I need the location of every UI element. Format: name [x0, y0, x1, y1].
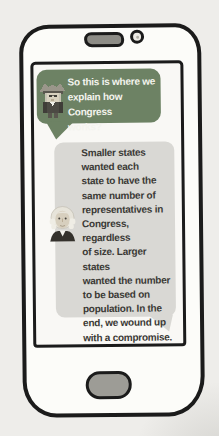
phone-home-button [86, 371, 132, 399]
franklin-character-avatar [40, 78, 66, 118]
message-text: Smaller states wanted each state to have… [81, 145, 176, 345]
phone-frame: So this is where we explain how Congress… [19, 23, 205, 418]
paper-background: So this is where we explain how Congress… [0, 0, 219, 436]
washington-character-avatar [49, 204, 76, 241]
message-text: So this is where we explain how Congress… [67, 73, 161, 134]
phone-screen: So this is where we explain how Congress… [30, 60, 186, 348]
phone-speaker-slot [84, 32, 124, 47]
phone-camera-dot [130, 30, 144, 44]
